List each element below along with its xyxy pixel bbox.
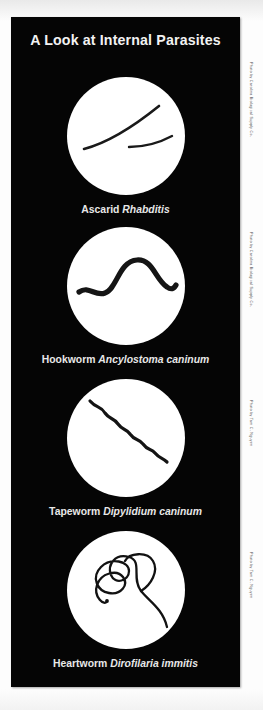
- hookworm-common-name: Hookworm: [42, 354, 96, 365]
- ascarid-roundworm-photo: [67, 77, 185, 195]
- caption-hookworm: Hookworm Ancylostoma caninum: [11, 354, 240, 366]
- hookworm-circle-frame: [11, 225, 240, 347]
- photo-credit-heartworm-text: Photo by Tam C. Nguyen: [249, 552, 253, 598]
- figure-hookworm: Hookworm Ancylostoma caninum: [11, 225, 240, 366]
- caption-tapeworm: Tapeworm Dipylidium caninum: [11, 506, 240, 518]
- tapeworm-photo: [67, 379, 185, 497]
- hookworm-scientific-name: Ancylostoma caninum: [98, 354, 209, 365]
- figure-ascarid: Ascarid Rhabditis: [11, 75, 240, 216]
- photo-credit-tapeworm-text: Photo by Tam C. Nguyen: [249, 400, 253, 446]
- photo-credit-hookworm-text: Photo by Carolina Biological Supply Co.: [249, 232, 253, 307]
- ascarid-common-name: Ascarid: [81, 204, 119, 215]
- page-title: A Look at Internal Parasites: [11, 33, 240, 49]
- figure-tapeworm: Tapeworm Dipylidium caninum: [11, 377, 240, 518]
- heartworm-photo: [67, 531, 185, 649]
- heartworm-scientific-name: Dirofilaria immitis: [110, 658, 198, 669]
- heartworm-common-name: Heartworm: [53, 658, 107, 669]
- poster-panel: A Look at Internal Parasites Ascarid Rha…: [11, 17, 240, 687]
- hookworm-photo: [67, 227, 185, 345]
- caption-ascarid: Ascarid Rhabditis: [11, 204, 240, 216]
- poster-page: A Look at Internal Parasites Ascarid Rha…: [0, 0, 263, 710]
- caption-heartworm: Heartworm Dirofilaria immitis: [11, 658, 240, 670]
- tapeworm-scientific-name: Dipylidium caninum: [103, 506, 202, 517]
- heartworm-circle-frame: [11, 529, 240, 651]
- tapeworm-common-name: Tapeworm: [49, 506, 100, 517]
- ascarid-scientific-name: Rhabditis: [122, 204, 169, 215]
- figure-heartworm: Heartworm Dirofilaria immitis: [11, 529, 240, 670]
- ascarid-circle-frame: [11, 75, 240, 197]
- photo-credit-ascarid-text: Photo by Carolina Biological Supply Co.: [249, 62, 253, 137]
- tapeworm-circle-frame: [11, 377, 240, 499]
